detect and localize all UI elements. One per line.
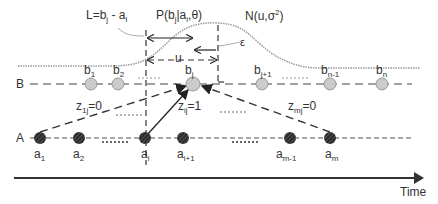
node-ai <box>139 132 151 144</box>
edge-z1j-label: z1j=0 <box>76 100 102 115</box>
node-b1-label: b1 <box>84 64 95 79</box>
node-a2 <box>73 132 85 144</box>
epsilon-pointer <box>219 42 240 46</box>
node-bn <box>376 78 388 90</box>
node-bn-label: bn <box>376 64 387 79</box>
epsilon-label: ε <box>240 37 245 48</box>
edge-zmj-label: zmj=0 <box>288 100 316 115</box>
time-axis-arrowhead <box>414 172 424 184</box>
node-b2-label: b2 <box>113 64 124 79</box>
node-bn1 <box>324 78 336 90</box>
node-am1 <box>284 132 296 144</box>
node-am-label: am <box>325 148 338 163</box>
node-ai-label: ai <box>141 148 149 163</box>
edge-a1-bj <box>40 86 186 132</box>
normal-distribution-label: N(u,σ2) <box>245 9 284 22</box>
node-ai1 <box>177 132 189 144</box>
node-a1 <box>34 132 46 144</box>
node-am1-label: am-1 <box>276 148 296 163</box>
node-bj-label: bj <box>185 64 193 79</box>
node-b2 <box>112 78 124 90</box>
lag-pointer <box>118 28 144 36</box>
u-label: u <box>175 52 182 64</box>
row-b-label: B <box>16 78 24 90</box>
node-bj1-label: bj+1 <box>254 64 272 79</box>
node-bj <box>186 77 200 91</box>
row-a-label: A <box>16 132 24 144</box>
lag-definition-label: L=bj - ai <box>86 9 127 24</box>
node-b1 <box>85 78 97 90</box>
node-bn1-label: bn-1 <box>321 64 339 79</box>
node-am <box>324 132 336 144</box>
time-axis-label: Time <box>400 186 426 198</box>
normal-distribution-curve <box>18 23 420 68</box>
node-ai1-label: ai+1 <box>177 148 195 163</box>
node-a1-label: a1 <box>34 148 45 163</box>
edge-zij-label: zij=1 <box>178 100 201 115</box>
probability-label: P(bj|ai,θ) <box>156 9 202 24</box>
node-bj1 <box>256 78 268 90</box>
diagram-canvas <box>0 0 438 204</box>
node-a2-label: a2 <box>73 148 84 163</box>
